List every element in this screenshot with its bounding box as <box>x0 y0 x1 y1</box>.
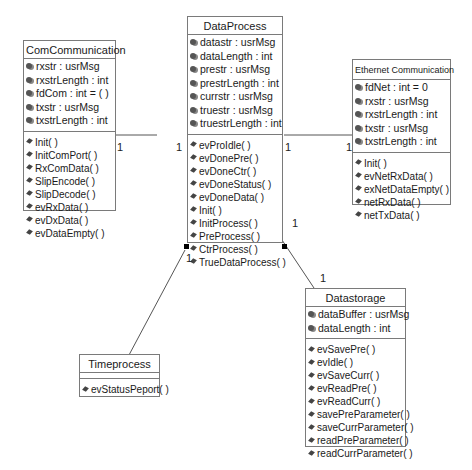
attribute-icon <box>308 310 317 319</box>
class-name: Timeprocess <box>80 355 159 373</box>
operation: evProIdle( ) <box>191 139 282 152</box>
multiplicity-label: 1 <box>117 141 123 153</box>
attribute-icon <box>190 92 199 101</box>
attribute: txstr : usrMsg <box>355 122 450 136</box>
operation: evRxData( ) <box>27 201 115 214</box>
operation-icon <box>27 230 33 236</box>
attribute: dataLength : int <box>190 50 282 64</box>
attribute: dataBuffer : usrMsg <box>308 308 405 322</box>
operation: evSaveCurr( ) <box>309 369 405 382</box>
class-name: Ethernet Communication <box>353 60 450 80</box>
operation: evSavePre( ) <box>309 343 405 356</box>
operation-icon <box>309 412 315 418</box>
operation-icon <box>356 186 362 192</box>
attribute: txstr : usrMsg <box>26 101 115 115</box>
attribute-icon <box>190 52 199 61</box>
attribute: rxstr : usrMsg <box>26 60 115 74</box>
operations-compartment: Init( ) InitComPort( ) RxComData( ) Slip… <box>24 132 115 243</box>
operation-icon <box>309 373 315 379</box>
operation: evDoneCtr( ) <box>191 165 282 178</box>
class-comcommunication[interactable]: ComCommunication rxstr : usrMsg rxstrLen… <box>23 40 116 211</box>
operation-icon <box>309 360 315 366</box>
multiplicity-label: 1 <box>346 141 352 153</box>
operation: evDxData( ) <box>27 214 115 227</box>
operation-icon <box>27 152 33 158</box>
selection-handle[interactable] <box>184 244 189 249</box>
operation-icon <box>191 168 197 174</box>
operations-compartment: Init( ) evNetRxData( ) exNetDataEmpty( )… <box>353 153 450 225</box>
operation-icon <box>309 347 315 353</box>
attribute: fdNet : int = 0 <box>355 81 450 95</box>
class-name: ComCommunication <box>24 41 115 59</box>
operation: SlipEncode( ) <box>27 175 115 188</box>
operation-icon <box>27 191 33 197</box>
multiplicity-label: 1 <box>320 272 326 284</box>
operations-compartment: evSavePre( ) evIdle( ) evSaveCurr( ) evR… <box>306 339 405 463</box>
attribute: dataLength : int <box>308 322 405 336</box>
attribute: fdCom : int = ( ) <box>26 87 115 101</box>
selection-handle[interactable] <box>282 244 287 249</box>
attribute-icon <box>190 119 199 128</box>
operation: CtrProcess( ) <box>191 243 282 256</box>
class-timeprocess[interactable]: Timeprocess evStatusPeport( ) <box>79 354 160 397</box>
operation-icon <box>309 438 315 444</box>
attribute-icon <box>26 103 35 112</box>
operation-icon <box>27 178 33 184</box>
attribute: truestr : usrMsg <box>190 104 282 118</box>
class-ethernet-communication[interactable]: Ethernet Communication fdNet : int = 0 r… <box>352 59 451 205</box>
operation: netRxData( ) <box>356 196 450 209</box>
operations-compartment: evStatusPeport( ) <box>80 379 159 399</box>
class-name: DataProcess <box>188 17 282 35</box>
operation: Init( ) <box>191 204 282 217</box>
operation: evDataEmpty( ) <box>27 227 115 240</box>
attributes-compartment: datastr : usrMsg dataLength : int prestr… <box>188 35 282 135</box>
operation-icon <box>356 173 362 179</box>
operation-icon <box>191 181 197 187</box>
class-name: Datastorage <box>306 289 405 307</box>
operation: evDonePre( ) <box>191 152 282 165</box>
attribute-icon <box>355 97 364 106</box>
operation: saveCurrParameter( ) <box>309 421 405 434</box>
attribute: prestr : usrMsg <box>190 63 282 77</box>
operation-icon <box>191 194 197 200</box>
operation: Init( ) <box>356 157 450 170</box>
attributes-compartment: rxstr : usrMsg rxstrLength : int fdCom :… <box>24 59 115 132</box>
attribute-icon <box>26 76 35 85</box>
operations-compartment: evProIdle( ) evDonePre( ) evDoneCtr( ) e… <box>188 135 282 272</box>
attributes-compartment: dataBuffer : usrMsg dataLength : int <box>306 307 405 339</box>
multiplicity-label: 1 <box>176 141 182 153</box>
attribute: currstr : usrMsg <box>190 90 282 104</box>
operation: netTxData( ) <box>356 209 450 222</box>
operation: evReadCurr( ) <box>309 395 405 408</box>
attribute: truestrLength : int <box>190 117 282 131</box>
attribute-icon <box>26 62 35 71</box>
operation-icon <box>191 233 197 239</box>
operation-icon <box>27 139 33 145</box>
operation: readPreParameter( ) <box>309 434 405 447</box>
operation-icon <box>309 399 315 405</box>
attribute: txstrLength : int <box>355 135 450 149</box>
operation-icon <box>191 155 197 161</box>
operation-icon <box>27 165 33 171</box>
operation: evStatusPeport( ) <box>83 383 159 396</box>
attribute: prestrLength : int <box>190 77 282 91</box>
class-dataprocess[interactable]: DataProcess datastr : usrMsg dataLength … <box>187 16 283 243</box>
operation-icon <box>309 451 315 457</box>
attribute-icon <box>190 65 199 74</box>
attribute: rxstrLength : int <box>26 74 115 88</box>
class-datastorage[interactable]: Datastorage dataBuffer : usrMsg dataLeng… <box>305 288 406 447</box>
attribute-icon <box>355 110 364 119</box>
operation-icon <box>27 217 33 223</box>
operation-icon <box>83 387 89 393</box>
operation: evNetRxData( ) <box>356 170 450 183</box>
operation: RxComData( ) <box>27 162 115 175</box>
attribute: rxstr : usrMsg <box>355 95 450 109</box>
attribute-icon <box>26 116 35 125</box>
operation: PreProcess( ) <box>191 230 282 243</box>
operation-icon <box>191 207 197 213</box>
operation: savePreParameter( ) <box>309 408 405 421</box>
operation: InitComPort( ) <box>27 149 115 162</box>
operation: readCurrParameter( ) <box>309 447 405 460</box>
operation-icon <box>309 425 315 431</box>
operation-icon <box>356 199 362 205</box>
